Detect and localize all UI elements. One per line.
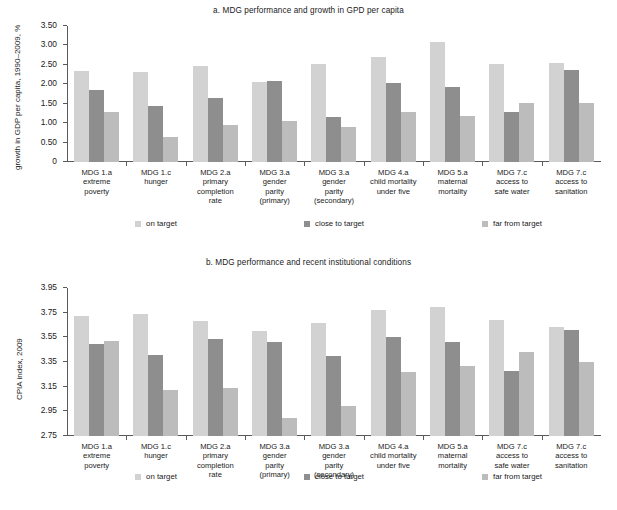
chart-a-plot-area: 00.501.001.502.002.503.003.50 <box>67 26 601 162</box>
chart-b-x-tick <box>186 436 187 440</box>
bar[interactable] <box>326 117 341 162</box>
bar[interactable] <box>148 355 163 436</box>
legend-item[interactable]: close to target <box>245 472 423 481</box>
chart-a-x-tick <box>423 162 424 166</box>
legend-item[interactable]: close to target <box>245 219 423 228</box>
chart-b-x-tick <box>304 436 305 440</box>
bar[interactable] <box>133 314 148 436</box>
bar[interactable] <box>163 137 178 162</box>
x-category-label: MDG 3.agenderparity(primary) <box>245 168 304 206</box>
chart-a-y-tick-label: 0.50 <box>41 142 57 143</box>
x-category-label: MDG 2.aprimarycompletionrate <box>186 168 245 206</box>
bar[interactable] <box>430 307 445 437</box>
bar[interactable] <box>401 372 416 436</box>
chart-a-x-tick <box>126 162 127 166</box>
bar-group <box>364 26 423 162</box>
bar[interactable] <box>341 406 356 436</box>
bar[interactable] <box>223 125 238 162</box>
bar[interactable] <box>445 87 460 162</box>
bar[interactable] <box>386 83 401 162</box>
bar[interactable] <box>267 81 282 162</box>
bar[interactable] <box>223 388 238 436</box>
bar-group <box>67 26 126 162</box>
chart-b-plot-area: 2.752.953.153.353.553.753.95 <box>67 288 601 436</box>
chart-a-bar-groups <box>67 26 601 162</box>
chart-a-x-tick <box>542 162 543 166</box>
bar[interactable] <box>371 57 386 162</box>
x-category-label: MDG 4.achild mortalityunder five <box>364 168 423 206</box>
chart-b-x-tick <box>126 436 127 440</box>
bar[interactable] <box>74 316 89 436</box>
bar[interactable] <box>460 116 475 162</box>
bar[interactable] <box>460 366 475 436</box>
bar[interactable] <box>489 64 504 162</box>
chart-b-x-tick <box>245 436 246 440</box>
bar[interactable] <box>148 106 163 162</box>
bar[interactable] <box>252 82 267 162</box>
chart-b-bar-groups <box>67 288 601 436</box>
bar[interactable] <box>386 337 401 436</box>
chart-b-y-tick-label: 3.55 <box>41 336 57 337</box>
bar-group <box>482 288 541 436</box>
bar[interactable] <box>163 390 178 436</box>
bar[interactable] <box>282 418 297 437</box>
bar-group <box>423 26 482 162</box>
bar[interactable] <box>579 362 594 436</box>
bar[interactable] <box>133 72 148 162</box>
bar[interactable] <box>401 112 416 163</box>
chart-a-y-axis-label: growth in GDP per capita, 1990–2009, % <box>13 25 22 170</box>
bar[interactable] <box>89 90 104 162</box>
bar[interactable] <box>371 310 386 436</box>
bar-group <box>364 288 423 436</box>
chart-b-y-axis-label: CPIA index, 2009 <box>15 338 24 400</box>
bar[interactable] <box>489 320 504 436</box>
bar[interactable] <box>104 341 119 436</box>
legend-item[interactable]: far from target <box>423 472 601 481</box>
x-category-label: MDG 1.aextremepoverty <box>67 168 126 206</box>
bar[interactable] <box>311 64 326 162</box>
chart-b-x-tick <box>364 436 365 440</box>
x-category-label: MDG 7.caccess tosanitation <box>542 168 601 206</box>
bar[interactable] <box>445 342 460 436</box>
chart-panel-a: a. MDG performance and growth in GPD per… <box>0 0 617 248</box>
legend-item[interactable]: on target <box>67 219 245 228</box>
bar[interactable] <box>549 63 564 162</box>
bar[interactable] <box>208 339 223 436</box>
legend-item[interactable]: far from target <box>423 219 601 228</box>
bar-group <box>245 288 304 436</box>
bar[interactable] <box>74 71 89 162</box>
bar[interactable] <box>267 342 282 436</box>
bar[interactable] <box>504 112 519 163</box>
bar-group <box>186 288 245 436</box>
chart-a-y-tick-label: 1.00 <box>41 122 57 123</box>
chart-a-y-tick-label: 3.50 <box>41 25 57 26</box>
chart-b-y-tick-label: 2.95 <box>41 410 57 411</box>
bar[interactable] <box>193 66 208 162</box>
bar[interactable] <box>519 352 534 436</box>
bar[interactable] <box>89 344 104 437</box>
bar[interactable] <box>282 121 297 162</box>
bar[interactable] <box>104 112 119 162</box>
bar[interactable] <box>504 371 519 436</box>
legend-label: close to target <box>315 219 364 228</box>
bar[interactable] <box>564 330 579 436</box>
legend-label: on target <box>146 219 177 228</box>
bar[interactable] <box>549 327 564 436</box>
chart-b-legend: on targetclose to targetfar from target <box>67 472 601 481</box>
legend-label: far from target <box>493 219 542 228</box>
chart-a-y-tick-label: 3.00 <box>41 44 57 45</box>
legend-swatch-icon <box>135 474 141 480</box>
bar[interactable] <box>311 323 326 436</box>
bar[interactable] <box>519 103 534 162</box>
bar[interactable] <box>564 70 579 162</box>
legend-item[interactable]: on target <box>67 472 245 481</box>
bar[interactable] <box>430 42 445 162</box>
bar[interactable] <box>579 103 594 162</box>
bar[interactable] <box>193 321 208 436</box>
bar[interactable] <box>326 356 341 436</box>
bar[interactable] <box>252 331 267 436</box>
bar[interactable] <box>208 98 223 162</box>
bar-group <box>67 288 126 436</box>
bar-group <box>542 288 601 436</box>
bar[interactable] <box>341 127 356 162</box>
